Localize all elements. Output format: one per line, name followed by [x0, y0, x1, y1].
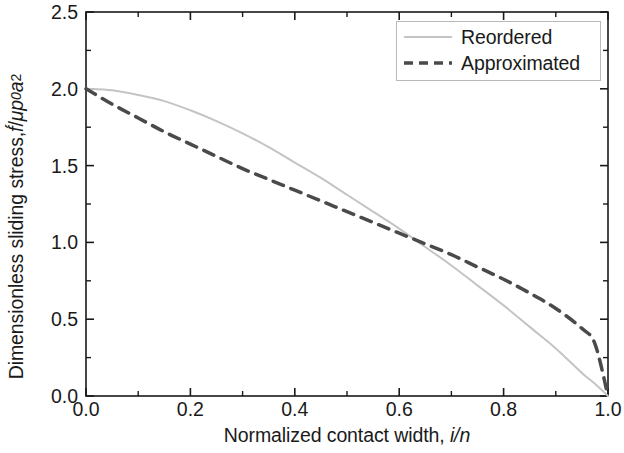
y-tick-label: 2.5 [20, 1, 78, 24]
chart-figure: Dimensionless sliding stress, f́/μp0a2 N… [0, 0, 624, 453]
y-tick-label: 1.5 [20, 154, 78, 177]
legend: Reordered Approximated [396, 21, 601, 81]
x-tick-label: 0.2 [177, 398, 204, 421]
y-tick-label: 2.0 [20, 77, 78, 100]
y-tick-label: 0.0 [20, 385, 78, 408]
x-tick-label: 1.0 [594, 398, 621, 421]
series-line-reordered [86, 89, 608, 396]
x-tick-label: 0.6 [386, 398, 413, 421]
data-series-group [86, 89, 608, 396]
y-tick-label: 0.5 [20, 308, 78, 331]
x-tick-label: 0.4 [281, 398, 308, 421]
solid-line-sample [404, 31, 452, 43]
legend-label-approximated: Approximated [461, 52, 580, 75]
x-tick-label: 0.8 [490, 398, 517, 421]
y-tick-label: 1.0 [20, 231, 78, 254]
legend-item-reordered: Reordered [404, 25, 552, 49]
legend-item-approximated: Approximated [404, 51, 580, 75]
dashed-line-sample [404, 57, 452, 69]
series-line-approximated [86, 89, 608, 396]
legend-label-reordered: Reordered [461, 26, 552, 49]
